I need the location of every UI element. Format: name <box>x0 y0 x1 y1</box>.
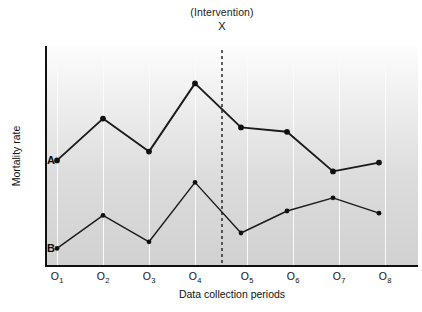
gridline-o5 <box>247 46 248 266</box>
plot-area <box>46 46 418 266</box>
x-tick-o8: O8 <box>379 270 391 282</box>
gridline-o4 <box>195 46 196 266</box>
y-axis-title: Mortality rate <box>10 126 22 187</box>
gridline-o1 <box>57 46 58 266</box>
x-axis-title: Data collection periods <box>179 288 285 300</box>
x-tick-o2: O2 <box>97 270 109 282</box>
x-axis-line <box>45 265 418 267</box>
x-tick-o4: O4 <box>189 270 201 282</box>
x-tick-o1: O1 <box>51 270 63 282</box>
x-tick-o3: O3 <box>143 270 155 282</box>
x-tick-o6: O6 <box>287 270 299 282</box>
intervention-label: (Intervention) <box>190 6 253 19</box>
gridline-o6 <box>293 46 294 266</box>
series-b-label: B <box>47 243 55 254</box>
gridline-o8 <box>385 46 386 266</box>
intervention-annotation: (Intervention) X <box>190 6 253 33</box>
gridline-o2 <box>103 46 104 266</box>
intervention-marker: X <box>190 20 253 33</box>
x-tick-o7: O7 <box>333 270 345 282</box>
chart-figure: (Intervention) X A B O1 O2 O3 O4 O5 O6 O… <box>0 0 422 312</box>
gridline-o3 <box>149 46 150 266</box>
gridline-o7 <box>339 46 340 266</box>
series-a-label: A <box>47 155 55 166</box>
x-tick-o5: O5 <box>241 270 253 282</box>
